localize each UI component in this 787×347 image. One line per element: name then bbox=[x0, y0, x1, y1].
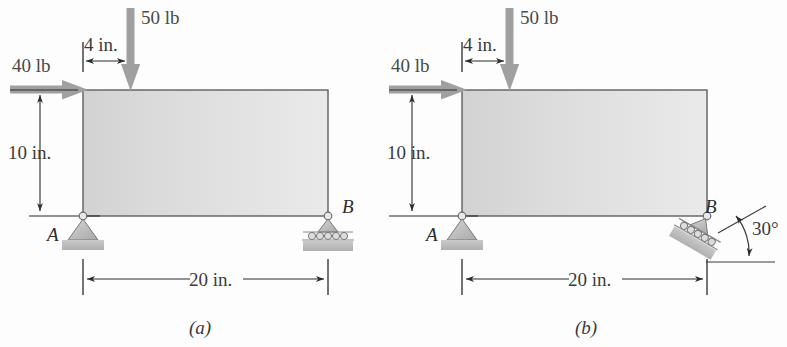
vertical-load-label: 50 lb bbox=[520, 7, 559, 28]
offset-dimension-label: 4 in. bbox=[84, 34, 118, 55]
incline-angle-label: 30° bbox=[752, 218, 779, 239]
support-b-label: B bbox=[705, 196, 717, 217]
height-dimension-label: 10 in. bbox=[8, 142, 51, 163]
panel-a: 40 lb 50 lb 4 in. 10 in. A bbox=[8, 7, 354, 339]
panel-a-caption: (a) bbox=[189, 317, 211, 339]
panel-b-caption: (b) bbox=[575, 317, 597, 339]
vertical-load-label: 50 lb bbox=[141, 7, 180, 28]
height-dimension-label: 10 in. bbox=[387, 142, 430, 163]
vertical-load-arrow bbox=[500, 8, 519, 91]
rigid-body-rectangle bbox=[83, 90, 328, 216]
rigid-body-rectangle bbox=[462, 90, 707, 216]
support-a bbox=[441, 212, 483, 250]
support-b bbox=[302, 212, 354, 251]
horizontal-load-label: 40 lb bbox=[12, 55, 51, 76]
span-dimension-label: 20 in. bbox=[189, 269, 232, 290]
support-b-label: B bbox=[342, 196, 354, 217]
horizontal-load-label: 40 lb bbox=[391, 55, 430, 76]
figure-canvas: 40 lb 50 lb 4 in. 10 in. A bbox=[0, 0, 787, 347]
panel-b: 40 lb 50 lb 4 in. 10 in. A bbox=[387, 7, 779, 339]
support-a-label: A bbox=[424, 224, 438, 245]
offset-dimension-label: 4 in. bbox=[463, 34, 497, 55]
support-a-label: A bbox=[45, 224, 59, 245]
span-dimension-label: 20 in. bbox=[568, 269, 611, 290]
vertical-load-arrow bbox=[121, 8, 140, 91]
support-a bbox=[62, 212, 104, 250]
